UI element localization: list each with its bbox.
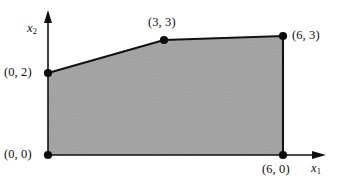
feasible-region-grain: [48, 36, 283, 155]
x-axis-label-sub: 1: [317, 166, 322, 176]
y-axis-label: x2: [27, 22, 37, 36]
vertex-label-0-2: (0, 2): [4, 66, 32, 79]
vertex-dot-6-3: [279, 32, 287, 40]
right-arrow-icon: [312, 151, 326, 159]
vertex-dot-origin: [44, 151, 52, 159]
vertex-label-origin: (0, 0): [4, 148, 32, 161]
up-arrow-icon: [44, 10, 52, 23]
vertex-dot-6-0: [279, 151, 287, 159]
vertex-label-6-0: (6, 0): [262, 163, 290, 176]
y-axis-label-sub: 2: [33, 26, 38, 36]
x-axis-label: x1: [311, 162, 321, 176]
vertex-label-6-3: (6, 3): [292, 29, 320, 42]
y-axis-label-base: x: [27, 21, 33, 35]
vertex-dot-3-3: [160, 36, 168, 44]
vertex-dot-0-2: [44, 69, 52, 77]
x-axis-label-base: x: [311, 161, 317, 175]
vertex-label-3-3: (3, 3): [148, 16, 176, 29]
